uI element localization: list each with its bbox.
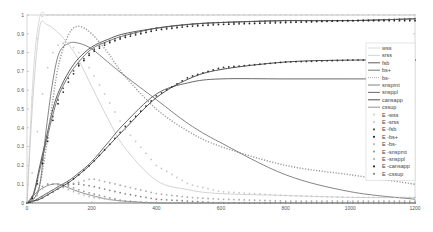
legend-label: E -wss <box>382 112 399 118</box>
y-tick-label: 0 <box>21 200 24 206</box>
y-tick-label: 0.9 <box>17 31 24 37</box>
legend-label: cssup <box>382 104 396 110</box>
legend-label: E -cansapp <box>382 163 410 169</box>
y-tick-label: 0.8 <box>17 49 24 55</box>
y-tick-label: 0.6 <box>17 87 24 93</box>
x-tick-label: 400 <box>152 205 161 211</box>
x-tick-label: 600 <box>217 205 226 211</box>
x-tick-label: 0 <box>26 205 29 211</box>
line-chart: 00.10.20.30.40.50.60.70.80.91 0200400600… <box>0 0 433 232</box>
x-tick-label: 800 <box>281 205 290 211</box>
legend-label: wss <box>381 45 392 51</box>
y-tick-label: 0.3 <box>17 143 24 149</box>
y-tick-label: 0.4 <box>17 125 24 131</box>
y-tick-label: 0.2 <box>17 162 24 168</box>
x-tick-label: 200 <box>87 205 96 211</box>
legend-label: E -bs- <box>382 141 397 147</box>
x-tick-label: 1200 <box>409 205 420 211</box>
legend-label: E -fsb <box>382 126 396 132</box>
legend-label: E -bs+ <box>382 134 398 140</box>
legend-label: fsb <box>382 60 389 66</box>
legend-label: E -srss <box>382 119 399 125</box>
x-tick-label: 1000 <box>345 205 356 211</box>
legend-label: cansapp <box>382 97 403 103</box>
legend: wsssrssfsbbs+bs-snspmtsnspplcansappcssup… <box>366 43 415 180</box>
legend-label: bs- <box>382 75 390 81</box>
legend-label: snsppl <box>382 89 398 95</box>
y-tick-label: 0.5 <box>17 106 24 112</box>
y-tick-label: 1 <box>21 12 24 18</box>
legend-label: E -snsppl <box>382 156 405 162</box>
y-tick-label: 0.7 <box>17 68 24 74</box>
y-tick-label: 0.1 <box>17 181 24 187</box>
legend-label: bs+ <box>382 67 391 73</box>
legend-label: E -cssup <box>382 171 403 177</box>
legend-label: snspmt <box>382 82 400 88</box>
plot-area <box>27 15 415 203</box>
legend-label: srss <box>382 52 392 58</box>
legend-label: E -snspmt <box>382 149 407 155</box>
